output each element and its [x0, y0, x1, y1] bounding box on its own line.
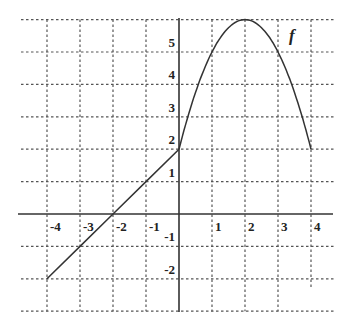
- x-tick-label: 3: [281, 219, 288, 234]
- y-tick-label: 2: [169, 132, 176, 147]
- y-tick-label: 3: [169, 100, 176, 115]
- grid-lines: [21, 20, 335, 312]
- x-tick-label: -1: [149, 219, 160, 234]
- function-graph: -4-3-2-11234-2-112345 f: [0, 0, 353, 328]
- y-tick-label: -2: [164, 262, 175, 277]
- x-tick-label: 1: [215, 219, 222, 234]
- x-tick-label: -2: [116, 219, 127, 234]
- y-tick-label: 1: [169, 165, 176, 180]
- x-tick-label: -4: [50, 219, 61, 234]
- y-tick-label: 4: [169, 67, 176, 82]
- function-label: f: [289, 26, 297, 45]
- axes: [18, 18, 333, 312]
- x-tick-label: 4: [314, 219, 321, 234]
- x-tick-label: 2: [248, 219, 255, 234]
- y-tick-label: -1: [164, 229, 175, 244]
- y-tick-label: 5: [169, 35, 176, 50]
- tick-labels: -4-3-2-11234-2-112345: [50, 35, 321, 277]
- x-tick-label: -3: [83, 219, 94, 234]
